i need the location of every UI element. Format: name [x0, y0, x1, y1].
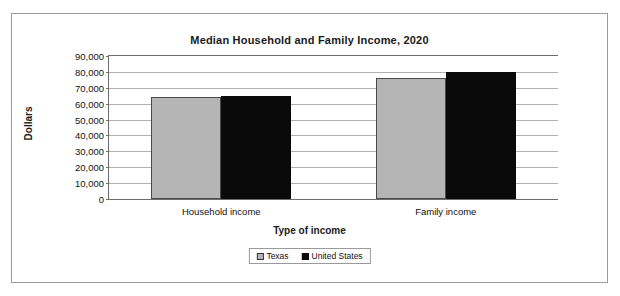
y-axis-tick-mark [106, 56, 109, 57]
y-axis-tick-mark [106, 151, 109, 152]
chart-legend: TexasUnited States [248, 248, 370, 264]
y-axis-tick-mark [106, 88, 109, 89]
y-axis-tick-label: 0 [99, 194, 104, 205]
y-axis-title: Dollars [23, 84, 34, 164]
x-axis-title: Type of income [12, 225, 607, 236]
y-axis-tick-label: 50,000 [75, 114, 104, 125]
legend-item-label: United States [312, 251, 363, 261]
y-axis-tick-label: 80,000 [75, 66, 104, 77]
y-axis-tick-mark [106, 135, 109, 136]
y-axis-tick-mark [106, 120, 109, 121]
y-axis-tick-mark [106, 183, 109, 184]
x-axis-category-label: Family income [415, 206, 476, 217]
legend-item-us: United States [302, 251, 363, 261]
legend-swatch-icon [302, 253, 309, 260]
plot-area: 90,00080,00070,00060,00050,00040,00030,0… [108, 55, 558, 200]
y-axis-tick-label: 70,000 [75, 82, 104, 93]
y-axis-tick-label: 20,000 [75, 162, 104, 173]
y-axis-tick-label: 60,000 [75, 98, 104, 109]
y-axis-tick-mark [106, 72, 109, 73]
chart-title: Median Household and Family Income, 2020 [12, 34, 607, 46]
y-axis-tick-label: 30,000 [75, 146, 104, 157]
y-axis-tick-mark [106, 104, 109, 105]
bar-household-income-united-states [221, 96, 291, 199]
legend-item-texas: Texas [256, 251, 288, 261]
bar-household-income-texas [151, 97, 221, 199]
legend-swatch-icon [256, 253, 263, 260]
y-axis-tick-mark [106, 167, 109, 168]
legend-item-label: Texas [266, 251, 288, 261]
y-axis-tick-label: 40,000 [75, 130, 104, 141]
chart-frame: Median Household and Family Income, 2020… [11, 13, 608, 283]
bar-family-income-united-states [446, 72, 516, 199]
x-axis-category-label: Household income [182, 206, 261, 217]
y-axis-tick-label: 10,000 [75, 178, 104, 189]
bar-family-income-texas [376, 78, 446, 199]
y-axis-tick-label: 90,000 [75, 51, 104, 62]
y-axis-tick-mark [106, 199, 109, 200]
